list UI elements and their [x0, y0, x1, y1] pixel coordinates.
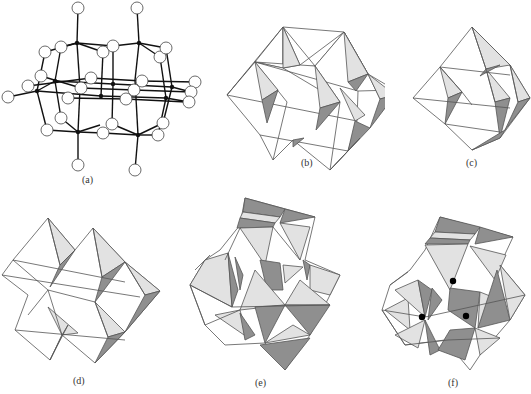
panel-b	[220, 20, 385, 175]
panel-label-e: (e)	[255, 377, 266, 388]
vertex-dot-right	[463, 313, 469, 319]
panel-a: (a)	[0, 0, 205, 190]
vertex-dot-top	[450, 278, 456, 284]
octahedron-c	[410, 20, 531, 160]
panel-label-a: (a)	[82, 174, 93, 185]
octahedra-block-b	[220, 20, 385, 175]
panel-label-f: (f)	[448, 377, 458, 388]
panel-e	[185, 195, 350, 370]
octahedra-block-d	[0, 215, 165, 375]
bonds	[8, 8, 195, 170]
panel-label-b: (b)	[301, 157, 313, 168]
panel-c	[410, 20, 531, 160]
panel-label-d: (d)	[73, 375, 85, 386]
framework-f	[370, 210, 531, 370]
panel-d	[0, 215, 165, 375]
octahedra-grid	[227, 27, 385, 170]
shaded-faces-f	[385, 217, 525, 360]
vertex-dot-left	[419, 314, 425, 320]
shaded-faces-e	[190, 198, 340, 370]
ball-and-stick-diagram	[0, 0, 205, 190]
framework-e	[185, 195, 350, 370]
panel-label-c: (c)	[466, 157, 477, 168]
panel-f	[370, 210, 531, 370]
